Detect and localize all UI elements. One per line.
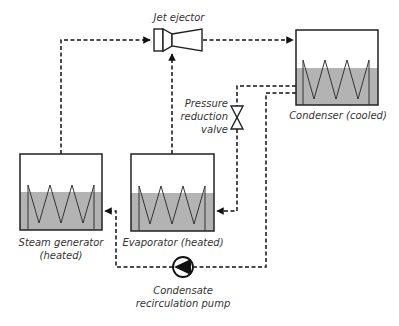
pipe-valve-to-evaporator [217, 129, 237, 211]
pump-label: Condensate recirculation pump [128, 284, 238, 310]
condenser-label-text: Condenser (cooled) [289, 110, 387, 121]
process-diagram [0, 0, 399, 326]
pump-icon [173, 257, 193, 277]
jet-ejector-label: Jet ejector [148, 11, 210, 24]
steam-generator-label-line1: Steam generator [8, 236, 114, 249]
valve-label-line2: reduction [168, 110, 228, 123]
condenser-vessel [296, 30, 378, 105]
evaporator-label: Evaporator (heated) [120, 236, 226, 249]
steam-generator-vessel [20, 154, 102, 230]
condenser-label: Condenser (cooled) [284, 109, 392, 122]
jet-ejector-icon [154, 29, 202, 51]
jet-ejector-label-text: Jet ejector [154, 12, 205, 23]
pump-label-line1: Condensate [128, 284, 238, 297]
steam-generator-label-line2: (heated) [8, 249, 114, 262]
valve-label-line1: Pressure [168, 97, 228, 110]
valve-label-line3: valve [168, 123, 228, 136]
pump-label-line2: recirculation pump [128, 297, 238, 310]
valve-icon [231, 106, 243, 129]
steam-generator-label: Steam generator (heated) [8, 236, 114, 262]
evaporator-label-text: Evaporator (heated) [122, 237, 223, 248]
valve-label: Pressure reduction valve [168, 97, 228, 136]
pipe-steam-to-ejector [61, 40, 150, 154]
evaporator-vessel [131, 154, 214, 231]
